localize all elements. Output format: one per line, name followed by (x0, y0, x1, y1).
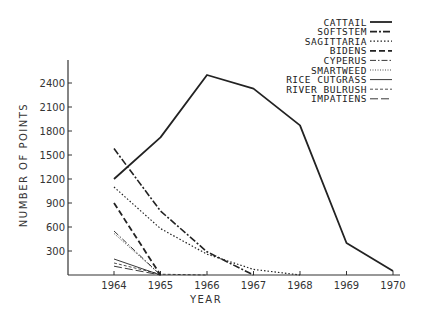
line-chart: 3006009001200150018002100240019641965196… (0, 0, 423, 319)
y-tick-label: 1200 (40, 174, 65, 185)
series-cattail (114, 75, 393, 271)
x-tick-label: 1969 (334, 280, 359, 291)
y-tick-label: 2400 (40, 78, 65, 89)
series-lines (114, 75, 393, 275)
x-tick-label: 1966 (194, 280, 219, 291)
x-axis-title: YEAR (189, 294, 222, 305)
legend-label: IMPATIENS (311, 93, 367, 104)
series-smartweed (114, 233, 161, 275)
y-tick-label: 900 (46, 198, 65, 209)
y-tick-label: 1800 (40, 126, 65, 137)
y-tick-label: 2100 (40, 102, 65, 113)
y-tick-label: 300 (46, 246, 65, 257)
series-bidens (114, 203, 161, 275)
x-tick-label: 1965 (148, 280, 173, 291)
y-tick-label: 600 (46, 222, 65, 233)
series-softstem (114, 149, 254, 275)
series-impatiens (114, 266, 161, 275)
series-sagittaria (114, 187, 300, 275)
x-tick-label: 1964 (101, 280, 126, 291)
y-tick-label: 1500 (40, 150, 65, 161)
x-tick-label: 1970 (380, 280, 405, 291)
x-tick-label: 1968 (287, 280, 312, 291)
legend: CATTAILSOFTSTEMSAGITTARIABIDENSCYPERUSSM… (286, 17, 392, 105)
x-tick-label: 1967 (241, 280, 266, 291)
y-axis-title: NUMBER OF POINTS (18, 103, 29, 227)
